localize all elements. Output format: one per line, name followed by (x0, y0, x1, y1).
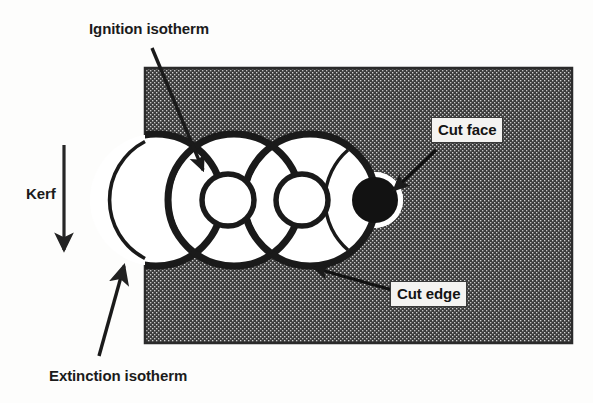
ignition-isotherm-label: Ignition isotherm (89, 21, 209, 36)
ignition-isotherm-circle-2 (276, 174, 328, 226)
ignition-isotherm-circles (202, 174, 397, 226)
cut-face-disc (353, 178, 397, 222)
kerf-label: Kerf (26, 186, 56, 201)
kerf-diagram-figure: Ignition isotherm Extinction isotherm Ke… (0, 0, 593, 403)
extinction-isotherm-leader (99, 266, 124, 356)
cut-edge-label: Cut edge (390, 281, 467, 307)
ignition-isotherm-circle-1 (202, 174, 254, 226)
extinction-isotherm-label: Extinction isotherm (49, 368, 187, 383)
diagram-canvas (0, 0, 593, 403)
cut-face-label: Cut face (431, 117, 503, 143)
